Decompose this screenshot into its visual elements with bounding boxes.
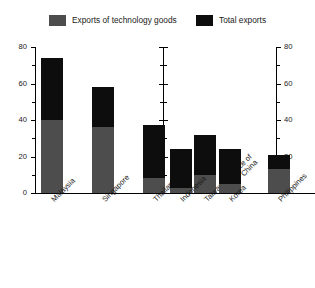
bar-segment-technology-goods xyxy=(41,120,63,193)
y-tick-mid-r-minor-70 xyxy=(164,65,167,66)
y-tick-right-80 xyxy=(277,47,281,48)
y-tick-label-left-20: 20 xyxy=(9,153,27,161)
y-tick-label-left-40: 40 xyxy=(9,116,27,124)
bar-singapore[interactable] xyxy=(92,87,114,193)
y-tick-mid-60 xyxy=(159,84,163,85)
y-tick-right-60 xyxy=(277,84,281,85)
y-tick-mid-r-60 xyxy=(164,84,168,85)
y-tick-right-minor-30 xyxy=(277,138,280,139)
y-tick-right-40 xyxy=(277,120,281,121)
y-tick-right-minor-70 xyxy=(277,65,280,66)
y-tick-mid-80 xyxy=(159,47,163,48)
y-tick-left-minor-30 xyxy=(32,138,35,139)
y-tick-left-minor-10 xyxy=(32,175,35,176)
y-tick-mid-minor-70 xyxy=(160,65,163,66)
y-tick-left-minor-70 xyxy=(32,65,35,66)
bar-malaysia[interactable] xyxy=(41,58,63,193)
bar-segment-technology-goods xyxy=(92,127,114,193)
y-tick-label-right-40: 40 xyxy=(284,116,304,124)
y-tick-mid-r-80 xyxy=(164,47,168,48)
y-axis-left-spine xyxy=(35,47,36,194)
y-tick-label-right-80: 80 xyxy=(284,43,304,51)
y-tick-mid-minor-50 xyxy=(160,102,163,103)
y-tick-mid-40 xyxy=(159,120,163,121)
chart-page: Exports of technology goods Total export… xyxy=(0,0,315,288)
y-tick-mid-r-minor-50 xyxy=(164,102,167,103)
y-tick-left-20 xyxy=(31,157,35,158)
y-tick-left-60 xyxy=(31,84,35,85)
y-tick-right-minor-50 xyxy=(277,102,280,103)
y-tick-left-minor-50 xyxy=(32,102,35,103)
y-tick-label-left-0: 0 xyxy=(9,189,27,197)
y-tick-left-40 xyxy=(31,120,35,121)
y-tick-label-left-80: 80 xyxy=(9,43,27,51)
bar-thailand[interactable] xyxy=(143,125,165,193)
y-tick-label-left-60: 60 xyxy=(9,80,27,88)
plot-area: 80604020080604020MalaysiaSingaporeThaila… xyxy=(0,0,315,288)
y-tick-mid-r-40 xyxy=(164,120,168,121)
y-tick-left-80 xyxy=(31,47,35,48)
y-tick-label-right-60: 60 xyxy=(284,80,304,88)
